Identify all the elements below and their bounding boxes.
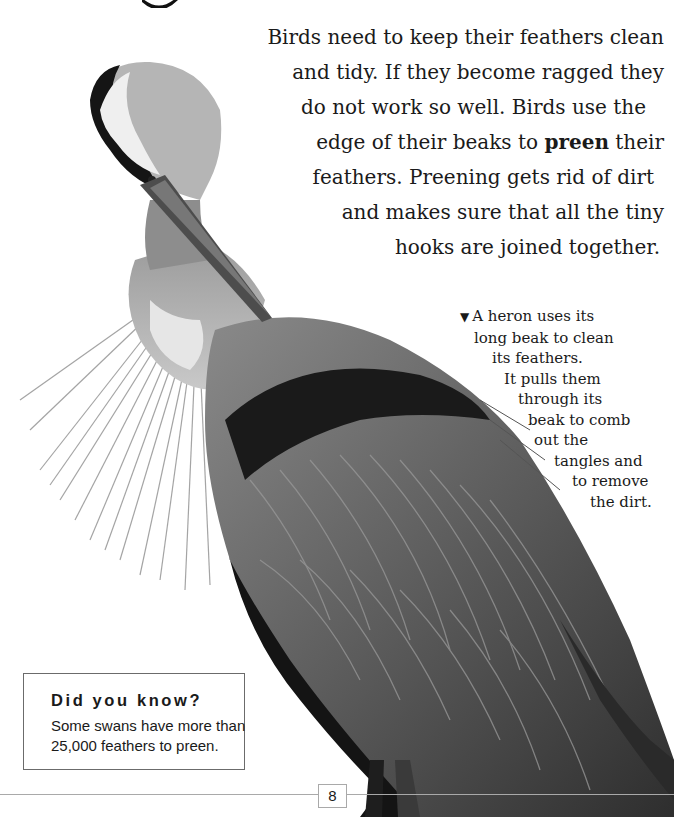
caption-line: its feathers. — [460, 348, 668, 369]
caption-line: tangles and — [460, 451, 668, 472]
body-line-with-term: edge of their beaks to preen their — [180, 125, 664, 160]
caption-line: It pulls them — [460, 369, 668, 390]
body-paragraph: Birds need to keep their feathers clean … — [180, 20, 664, 265]
did-you-know-box: Did you know? Some swans have more than … — [23, 673, 245, 770]
page-number: 8 — [318, 784, 347, 808]
body-line: do not work so well. Birds use the — [180, 90, 664, 125]
caption-text: A heron uses its — [472, 307, 594, 325]
body-text-fragment: edge of their beaks to — [316, 130, 544, 154]
caption-line: through its — [460, 389, 668, 410]
did-you-know-title: Did you know? — [51, 691, 244, 710]
body-line: feathers. Preening gets rid of dirt — [180, 160, 664, 195]
body-line: hooks are joined together. — [180, 230, 664, 265]
triangle-down-icon: ▼ — [460, 310, 469, 324]
caption-line: the dirt. — [460, 492, 668, 513]
body-text-fragment: their — [615, 130, 664, 154]
glossary-term-preen: preen — [544, 130, 609, 154]
caption-line: to remove — [460, 471, 668, 492]
did-you-know-line: 25,000 feathers to preen. — [51, 736, 244, 756]
caption-line: ▼A heron uses its — [460, 306, 668, 328]
caption-line: beak to comb — [460, 410, 668, 431]
body-line: and makes sure that all the tiny — [180, 195, 664, 230]
did-you-know-line: Some swans have more than — [51, 716, 244, 736]
caption-line: long beak to clean — [460, 328, 668, 349]
book-page: Birds need to keep their feathers clean … — [0, 0, 674, 817]
caption-line: out the — [460, 430, 668, 451]
photo-caption: ▼A heron uses its long beak to clean its… — [460, 306, 668, 512]
body-line: Birds need to keep their feathers clean — [180, 20, 664, 55]
body-line: and tidy. If they become ragged they — [180, 55, 664, 90]
